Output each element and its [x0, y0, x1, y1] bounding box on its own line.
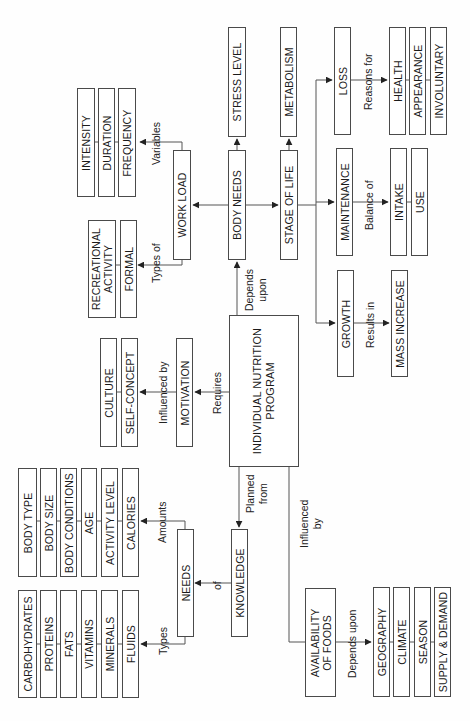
- edge-label-depends-upon-foods: Depends upon: [346, 610, 358, 678]
- node-label: STRESS LEVEL: [231, 43, 243, 122]
- node-label: RECREATIONALACTIVITY: [90, 228, 114, 310]
- node-work-load: WORK LOAD: [173, 150, 191, 260]
- label-line-1: Planned: [244, 474, 256, 513]
- node-individual-nutrition-program: INDIVIDUAL NUTRITIONPROGRAM: [229, 315, 299, 467]
- edge-label-variables: Variables: [150, 122, 162, 165]
- node-needs: NEEDS: [177, 529, 194, 637]
- node-label: NEEDS: [180, 565, 192, 602]
- node-label: DURATION: [101, 115, 113, 170]
- node-body-size: BODY SIZE: [40, 468, 57, 577]
- edge-label-types: Types: [157, 627, 169, 655]
- label-line-2: PROGRAM: [264, 362, 276, 420]
- node-label: AGE: [83, 511, 95, 533]
- edge-label-influenced-by: Influencedby: [298, 500, 324, 548]
- label-line-1: AVAILABILITY: [309, 608, 321, 677]
- node-label: CLIMATE: [396, 619, 408, 664]
- node-use: USE: [411, 148, 428, 256]
- node-activity-level: ACTIVITY LEVEL: [101, 468, 118, 577]
- node-age: AGE: [81, 468, 97, 577]
- node-climate: CLIMATE: [393, 587, 410, 697]
- node-culture: CULTURE: [100, 338, 117, 447]
- concept-map: INTENSITY DURATION FREQUENCY RECREATIONA…: [0, 0, 470, 721]
- node-label: MOTIVATION: [179, 360, 191, 425]
- node-knowledge: KNOWLEDGE: [231, 529, 248, 637]
- node-recreational-activity: RECREATIONALACTIVITY: [88, 220, 116, 318]
- node-body-conditions: BODY CONDITIONS: [60, 468, 77, 577]
- node-season: SEASON: [414, 587, 431, 697]
- node-label: CULTURE: [103, 368, 115, 418]
- edge-label-requires: Requires: [211, 372, 223, 414]
- node-duration: DURATION: [98, 88, 115, 197]
- node-label: KNOWLEDGE: [234, 548, 246, 617]
- label-line-2: OF FOODS: [321, 615, 333, 671]
- node-label: STAGE OF LIFE: [283, 166, 295, 245]
- node-label: AVAILABILITYOF FOODS: [309, 608, 333, 677]
- node-stress-level: STRESS LEVEL: [228, 27, 246, 137]
- label-line-2: from: [257, 483, 269, 504]
- node-label: CARBOHYDRATES: [22, 596, 34, 691]
- node-label: LOSS: [337, 67, 349, 95]
- node-label: CALORIES: [125, 496, 137, 550]
- node-fats: FATS: [60, 590, 77, 698]
- node-formal: FORMAL: [120, 220, 137, 318]
- node-label: MASS INCREASE: [394, 280, 406, 368]
- label-line-1: INDIVIDUAL NUTRITION: [251, 328, 263, 454]
- node-label: GROWTH: [340, 299, 352, 347]
- node-loss: LOSS: [334, 27, 351, 135]
- edge-label-reasons-for: Reasons for: [362, 53, 374, 110]
- node-vitamins: VITAMINS: [81, 590, 97, 698]
- edge-label-planned-from: Plannedfrom: [244, 474, 270, 513]
- node-label: INDIVIDUAL NUTRITIONPROGRAM: [251, 328, 277, 454]
- node-intensity: INTENSITY: [77, 88, 95, 197]
- node-geography: GEOGRAPHY: [373, 587, 390, 697]
- node-mass-increase: MASS INCREASE: [391, 270, 408, 377]
- node-label: MINERALS: [104, 617, 116, 671]
- node-body-type: BODY TYPE: [18, 468, 37, 577]
- node-label: SELF-CONCEPT: [124, 351, 136, 433]
- node-label: GEOGRAPHY: [376, 608, 388, 677]
- node-label: ACTIVITY LEVEL: [104, 480, 116, 564]
- node-stage-of-life: STAGE OF LIFE: [280, 150, 298, 260]
- node-frequency: FREQUENCY: [118, 88, 136, 197]
- node-motivation: MOTIVATION: [176, 338, 193, 447]
- node-label: FREQUENCY: [121, 109, 133, 176]
- node-intake: INTAKE: [390, 148, 407, 256]
- edge-label-depends-upon: Dependsupon: [243, 269, 269, 311]
- node-carbohydrates: CARBOHYDRATES: [18, 590, 37, 698]
- node-proteins: PROTEINS: [40, 590, 57, 698]
- node-label: SUPPLY & DEMAND: [437, 592, 449, 692]
- edge-label-of: of: [211, 581, 223, 590]
- node-label: SEASON: [417, 620, 429, 664]
- node-health: HEALTH: [389, 27, 406, 135]
- node-label: WORK LOAD: [176, 172, 188, 237]
- node-label: FATS: [63, 631, 75, 657]
- label-line-2: by: [311, 518, 323, 529]
- node-label: INTAKE: [393, 183, 405, 221]
- node-label: FORMAL: [123, 247, 135, 291]
- node-label: METABOLISM: [283, 47, 295, 116]
- node-label: APPEARANCE: [412, 45, 424, 118]
- label-line-2: upon: [256, 278, 268, 301]
- node-label: BODY CONDITIONS: [63, 473, 75, 573]
- edge-label-influenced-by-motivation: Influenced by: [157, 362, 169, 424]
- node-growth: GROWTH: [337, 270, 354, 377]
- node-label: FLUIDS: [125, 625, 137, 663]
- node-label: INVOLUNTARY: [433, 44, 445, 119]
- node-label: INTENSITY: [80, 115, 92, 171]
- edge-label-types-of: Types of: [150, 243, 162, 283]
- label-line-1: Depends: [243, 269, 255, 311]
- node-label: BODY SIZE: [43, 494, 55, 551]
- node-calories: CALORIES: [122, 468, 139, 577]
- node-label: PROTEINS: [43, 617, 55, 671]
- label-line-2: ACTIVITY: [102, 245, 114, 293]
- node-availability-of-foods: AVAILABILITYOF FOODS: [305, 588, 336, 697]
- edge-label-results-in: Results in: [364, 302, 376, 348]
- label-line-1: Influenced: [298, 500, 310, 548]
- node-supply-demand: SUPPLY & DEMAND: [434, 587, 451, 697]
- node-self-concept: SELF-CONCEPT: [121, 338, 138, 447]
- node-label: BODY NEEDS: [231, 170, 243, 240]
- node-label: VITAMINS: [83, 619, 95, 669]
- node-fluids: FLUIDS: [122, 590, 139, 698]
- node-appearance: APPEARANCE: [409, 27, 426, 135]
- node-body-needs: BODY NEEDS: [228, 150, 246, 260]
